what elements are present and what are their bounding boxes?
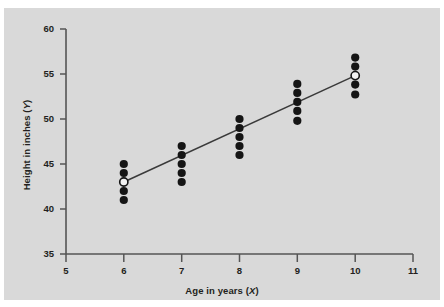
- data-point: [235, 151, 243, 159]
- data-point: [235, 115, 243, 123]
- data-point: [293, 98, 301, 106]
- x-axis-ticks: [66, 254, 413, 262]
- mean-marker-age-6: [120, 178, 128, 186]
- data-point: [120, 196, 128, 204]
- data-point: [293, 107, 301, 115]
- data-point: [120, 160, 128, 168]
- x-axis-title-text: Age in years (: [185, 285, 249, 296]
- x-tick-label-10: 10: [343, 265, 367, 276]
- x-tick-label-11: 11: [401, 265, 425, 276]
- data-point: [178, 178, 186, 186]
- x-axis-title: Age in years (X): [0, 285, 444, 296]
- x-tick-label-8: 8: [228, 265, 252, 276]
- data-point: [235, 142, 243, 150]
- data-point: [351, 63, 359, 71]
- chart-figure: 60 55 50 45 40 35 5 6 7 8 9 10 11 Age in…: [0, 0, 444, 307]
- scatter-plot-canvas: [0, 0, 444, 307]
- data-point: [235, 133, 243, 141]
- y-axis-title-text: Height in inches (: [21, 109, 32, 190]
- y-tick-label-55: 55: [32, 68, 54, 79]
- y-tick-label-45: 45: [32, 158, 54, 169]
- x-tick-label-9: 9: [285, 265, 309, 276]
- y-axis-title-close: ): [21, 100, 32, 103]
- data-point: [351, 90, 359, 98]
- y-axis-title-wrapper: Height in inches (Y): [16, 35, 34, 255]
- mean-marker-age-10: [351, 72, 359, 80]
- data-points-age-7: [178, 142, 186, 186]
- data-point: [178, 142, 186, 150]
- data-point: [235, 124, 243, 132]
- x-tick-label-5: 5: [54, 265, 78, 276]
- data-point: [178, 151, 186, 159]
- data-point: [178, 169, 186, 177]
- data-point: [120, 169, 128, 177]
- x-axis-title-close: ): [255, 285, 258, 296]
- x-tick-label-7: 7: [170, 265, 194, 276]
- data-point: [293, 89, 301, 97]
- data-point: [178, 160, 186, 168]
- data-point: [293, 117, 301, 125]
- y-axis-ticks: [60, 29, 66, 254]
- data-point: [293, 80, 301, 88]
- y-tick-label-50: 50: [32, 113, 54, 124]
- x-tick-label-6: 6: [112, 265, 136, 276]
- y-tick-label-60: 60: [32, 23, 54, 34]
- data-point: [351, 54, 359, 62]
- y-axis-title: Height in inches (Y): [21, 100, 32, 191]
- data-points-age-9: [293, 80, 301, 125]
- data-points-age-8: [235, 115, 243, 159]
- data-point: [351, 81, 359, 89]
- y-axis-title-variable: Y: [21, 103, 32, 109]
- data-point: [120, 187, 128, 195]
- y-tick-label-35: 35: [32, 248, 54, 259]
- y-tick-label-40: 40: [32, 203, 54, 214]
